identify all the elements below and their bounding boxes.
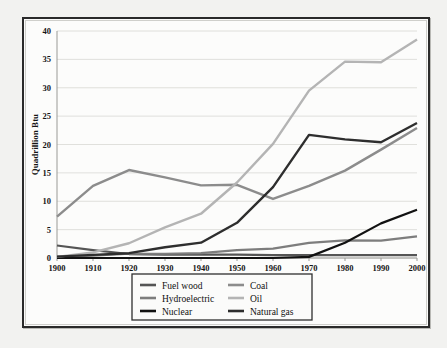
x-tick-label-1930: 1930 [157, 263, 174, 273]
y-tick-label-35: 35 [43, 54, 52, 64]
axes [57, 31, 417, 261]
x-axis-tick-labels: 1900191019201930194019501960197019801990… [49, 263, 426, 273]
y-tick-label-0: 0 [47, 253, 51, 263]
legend-label-natural-gas: Natural gas [250, 307, 294, 317]
legend-label-oil: Oil [250, 294, 263, 304]
y-tick-label-5: 5 [47, 225, 51, 235]
x-tick-label-2000: 2000 [409, 263, 426, 273]
energy-consumption-line-chart: 0510152025303540 19001910192019301940195… [0, 0, 447, 348]
y-tick-label-15: 15 [43, 168, 52, 178]
y-axis-title: Quadrillion Btu [30, 114, 40, 175]
x-tick-label-1990: 1990 [373, 263, 390, 273]
y-tick-label-20: 20 [43, 140, 52, 150]
x-tick-label-1900: 1900 [49, 263, 66, 273]
y-tick-label-30: 30 [43, 83, 52, 93]
series-line-oil [57, 40, 417, 257]
legend-label-coal: Coal [250, 281, 268, 291]
y-axis-tick-labels: 0510152025303540 [43, 26, 52, 263]
legend-label-nuclear: Nuclear [162, 307, 193, 317]
x-tick-label-1940: 1940 [193, 263, 210, 273]
y-tick-label-40: 40 [43, 26, 52, 36]
x-tick-label-1980: 1980 [337, 263, 354, 273]
data-series [57, 40, 417, 258]
legend-label-hydroelectric: Hydroelectric [162, 294, 214, 304]
y-tick-label-25: 25 [43, 111, 52, 121]
x-tick-label-1920: 1920 [121, 263, 138, 273]
x-tick-label-1970: 1970 [301, 263, 318, 273]
x-tick-label-1950: 1950 [229, 263, 246, 273]
y-axis-label-text: Quadrillion Btu [30, 114, 40, 175]
x-tick-label-1910: 1910 [85, 263, 102, 273]
chart-figure: 0510152025303540 19001910192019301940195… [0, 0, 447, 348]
series-line-natural-gas [57, 123, 417, 257]
chart-legend: Fuel woodHydroelectricNuclearCoalOilNatu… [132, 274, 312, 320]
y-tick-label-10: 10 [43, 196, 52, 206]
x-tick-label-1960: 1960 [265, 263, 282, 273]
legend-label-fuel-wood: Fuel wood [162, 281, 203, 291]
